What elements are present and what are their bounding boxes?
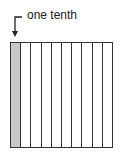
strip xyxy=(21,43,31,147)
strip xyxy=(42,43,52,147)
one-tenth-label: one tenth xyxy=(27,8,77,22)
strip xyxy=(103,43,112,147)
strip xyxy=(82,43,92,147)
strip xyxy=(72,43,82,147)
strip xyxy=(52,43,62,147)
shaded-strip xyxy=(11,43,21,147)
strip xyxy=(93,43,103,147)
tenths-grid xyxy=(10,42,113,148)
strip xyxy=(31,43,41,147)
strip xyxy=(62,43,72,147)
